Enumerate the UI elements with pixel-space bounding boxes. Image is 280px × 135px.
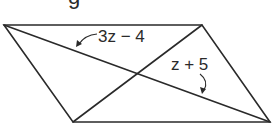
label-lower-segment: z + 5 — [171, 56, 208, 73]
label-upper-segment: 3z − 4 — [98, 28, 145, 45]
arrow-icon-lower-label — [200, 74, 206, 94]
parallelogram-diagram — [0, 0, 280, 135]
arrow-icon-upper-label — [76, 34, 97, 47]
